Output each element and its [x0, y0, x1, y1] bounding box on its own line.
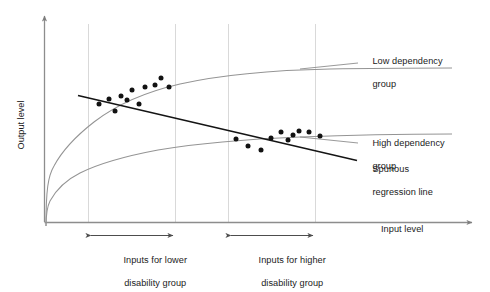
lower-bracket-line2: disability group	[124, 278, 186, 288]
data-point	[291, 133, 296, 138]
data-point	[297, 129, 302, 134]
leader-low-dependency	[300, 63, 358, 69]
data-point	[159, 76, 164, 81]
data-point	[307, 130, 312, 135]
data-point	[153, 83, 158, 88]
data-point	[246, 144, 251, 149]
lower-disability-bracket-label: Inputs for lower disability group	[90, 243, 210, 292]
y-axis-label: Output level	[16, 95, 26, 155]
data-point	[259, 148, 264, 153]
data-point	[130, 88, 135, 93]
data-point	[234, 137, 239, 142]
data-point	[125, 98, 130, 103]
data-point	[286, 138, 291, 143]
spurious-label-line1: Spurious	[372, 164, 409, 174]
x-axis-label: Input level	[381, 224, 423, 236]
low-dependency-label-line2: group	[372, 79, 396, 89]
spurious-label-line2: regression line	[372, 187, 433, 197]
data-point	[279, 130, 284, 135]
spurious-regression-label: Spurious regression line	[362, 152, 433, 210]
data-point	[107, 97, 112, 102]
gridlines	[89, 24, 316, 222]
low-dependency-label: Low dependency group	[362, 44, 443, 102]
data-point	[137, 102, 142, 107]
data-point	[119, 94, 124, 99]
data-point	[113, 109, 118, 114]
leader-high-dependency	[300, 137, 358, 143]
low-dependency-label-line1: Low dependency	[372, 56, 442, 66]
data-point	[318, 134, 323, 139]
higher-bracket-line2: disability group	[261, 278, 323, 288]
data-point	[269, 136, 274, 141]
higher-bracket-line1: Inputs for higher	[259, 255, 326, 265]
data-point	[167, 85, 172, 90]
data-point	[97, 102, 102, 107]
lower-bracket-line1: Inputs for lower	[123, 255, 187, 265]
data-point	[143, 85, 148, 90]
high-dependency-label-line1: High dependency	[372, 138, 444, 148]
higher-disability-bracket-label: Inputs for higher disability group	[228, 243, 346, 292]
